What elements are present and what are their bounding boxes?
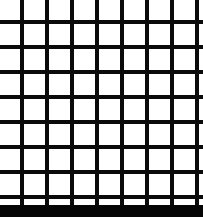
grid-line-vertical: [120, 0, 124, 205]
figure-canvas: [0, 0, 203, 217]
grid-line-horizontal: [0, 170, 203, 174]
grid-line-horizontal: [0, 195, 203, 199]
grid-line-vertical: [20, 0, 24, 205]
grid-line-horizontal: [0, 145, 203, 149]
bottom-bar-artifact-text: [177, 210, 201, 216]
grid-line-vertical: [170, 0, 174, 205]
bottom-status-bar: [0, 205, 203, 217]
grid-line-horizontal: [0, 95, 203, 99]
grid-line-horizontal: [0, 20, 203, 24]
grid-line-horizontal: [0, 120, 203, 124]
grid-line-vertical: [195, 0, 199, 205]
grid-line-vertical: [45, 0, 49, 205]
grid-line-vertical: [145, 0, 149, 205]
grid-line-vertical: [70, 0, 74, 205]
grid-line-horizontal: [0, 70, 203, 74]
grid-line-vertical: [95, 0, 99, 205]
grid-field: [0, 0, 203, 205]
grid-line-horizontal: [0, 45, 203, 49]
